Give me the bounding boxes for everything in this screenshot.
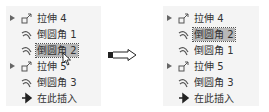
tree-item-label: 在此插入 — [36, 92, 78, 105]
tree-item-extrude-5[interactable]: 拉伸 5 — [10, 58, 68, 74]
round-icon — [21, 28, 33, 40]
tree-item-label: 倒圆角 1 — [193, 44, 235, 57]
tree-item-round-3[interactable]: 倒圆角 3 — [178, 74, 235, 90]
insert-arrow-icon — [21, 92, 33, 104]
tree-item-label: 在此插入 — [193, 92, 235, 105]
model-tree-before: 拉伸 4 倒圆角 1 倒圆角 2 拉伸 5 倒圆角 3 在此插入 — [6, 6, 101, 106]
insert-arrow-icon — [178, 92, 190, 104]
tree-item-insert-here[interactable]: 在此插入 — [21, 90, 78, 106]
tree-item-extrude-4[interactable]: 拉伸 4 — [167, 10, 225, 26]
tree-item-label: 拉伸 5 — [193, 60, 225, 73]
round-icon — [21, 44, 33, 56]
tree-item-extrude-5[interactable]: 拉伸 5 — [167, 58, 225, 74]
model-tree-after: 拉伸 4 倒圆角 2 倒圆角 1 拉伸 5 倒圆角 3 在此插入 — [163, 6, 259, 106]
tree-item-insert-here[interactable]: 在此插入 — [178, 90, 235, 106]
tree-item-extrude-4[interactable]: 拉伸 4 — [10, 10, 68, 26]
tree-item-round-3[interactable]: 倒圆角 3 — [21, 74, 78, 90]
mouse-pointer-icon — [62, 52, 72, 66]
extrude-icon — [178, 12, 190, 24]
round-icon — [21, 76, 33, 88]
round-icon — [178, 44, 190, 56]
tree-item-label: 倒圆角 2 — [193, 28, 235, 41]
expand-triangle-icon[interactable] — [10, 63, 15, 69]
tree-item-label: 拉伸 4 — [36, 12, 68, 25]
tree-item-label: 拉伸 4 — [193, 12, 225, 25]
tree-item-round-1[interactable]: 倒圆角 1 — [178, 42, 235, 58]
round-icon — [178, 76, 190, 88]
extrude-icon — [21, 60, 33, 72]
expand-triangle-icon[interactable] — [10, 15, 15, 21]
extrude-icon — [178, 60, 190, 72]
expand-triangle-icon[interactable] — [167, 15, 172, 21]
tree-item-round-2[interactable]: 倒圆角 2 — [178, 26, 235, 42]
extrude-icon — [21, 12, 33, 24]
right-arrow-icon — [108, 49, 138, 61]
tree-item-round-1[interactable]: 倒圆角 1 — [21, 26, 78, 42]
tree-item-label: 倒圆角 3 — [36, 76, 78, 89]
expand-triangle-icon[interactable] — [167, 63, 172, 69]
round-icon — [178, 28, 190, 40]
tree-item-label: 倒圆角 3 — [193, 76, 235, 89]
tree-item-label: 倒圆角 1 — [36, 28, 78, 41]
